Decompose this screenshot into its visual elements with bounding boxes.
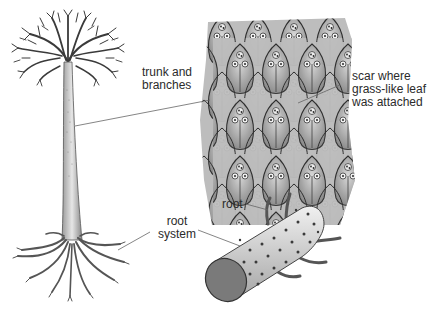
tree-trunk [62,62,82,240]
illustration [0,0,443,310]
label-root-system: root system [152,215,202,241]
label-leaf-scar: scar where grass-like leaf was attached [352,70,426,109]
trunk-leader-line [75,100,210,126]
root-system-leader-line [118,232,150,250]
label-line: was attached [352,96,426,109]
root-system-leader-line-2 [198,230,240,246]
label-trunk-and-branches: trunk and branches [142,66,192,92]
label-root: root [222,198,243,211]
tree-roots [13,233,129,301]
label-line: branches [142,79,192,92]
label-line: system [152,228,202,241]
